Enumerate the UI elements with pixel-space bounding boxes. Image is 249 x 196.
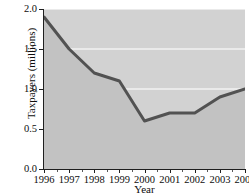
- x-tick-mark: [94, 170, 95, 173]
- x-axis-title: Year: [44, 184, 245, 195]
- area-fill: [44, 17, 245, 169]
- x-tick-mark: [44, 170, 45, 173]
- x-tick-mark: [170, 170, 171, 173]
- x-minor-tick-mark: [57, 170, 58, 172]
- y-tick-label: 1.5: [24, 44, 37, 55]
- y-tick-label: 0.5: [24, 124, 37, 135]
- y-tick-mark: [39, 129, 43, 130]
- x-minor-tick-mark: [82, 170, 83, 172]
- y-tick-mark: [39, 9, 43, 10]
- y-tick-mark: [39, 49, 43, 50]
- y-tick-mark: [39, 89, 43, 90]
- x-minor-tick-mark: [232, 170, 233, 172]
- x-minor-tick-mark: [107, 170, 108, 172]
- x-tick-mark: [195, 170, 196, 173]
- chart-canvas: [44, 9, 245, 169]
- plot-area: [44, 9, 245, 169]
- y-tick-mark: [39, 169, 43, 170]
- x-tick-mark: [69, 170, 70, 173]
- y-tick-label: 0.0: [24, 164, 37, 175]
- y-axis-tick-labels: 0.00.51.01.52.0: [4, 0, 40, 196]
- x-minor-tick-mark: [157, 170, 158, 172]
- y-tick-label: 1.0: [24, 84, 37, 95]
- chart-figure: Taxpayers (millions) 0.00.51.01.52.0 199…: [0, 0, 249, 196]
- x-minor-tick-mark: [182, 170, 183, 172]
- x-tick-mark: [245, 170, 246, 173]
- x-minor-tick-mark: [207, 170, 208, 172]
- y-tick-label: 2.0: [24, 4, 37, 15]
- x-tick-mark: [220, 170, 221, 173]
- x-minor-tick-mark: [132, 170, 133, 172]
- x-tick-mark: [145, 170, 146, 173]
- x-tick-mark: [119, 170, 120, 173]
